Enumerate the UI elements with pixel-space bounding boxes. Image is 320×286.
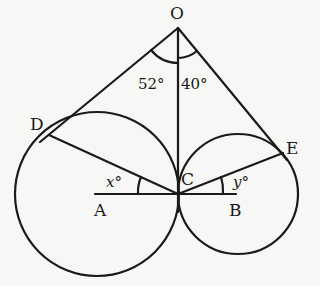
diagram-svg: O D E C A B 52° 40° x° y° bbox=[0, 0, 320, 286]
label-e: E bbox=[286, 138, 298, 158]
angle-label-52: 52° bbox=[138, 75, 165, 93]
label-b: B bbox=[229, 200, 242, 220]
angle-label-y: y° bbox=[232, 173, 249, 191]
label-d: D bbox=[30, 114, 44, 134]
label-a: A bbox=[93, 200, 107, 220]
angle-arc-coe bbox=[178, 51, 197, 58]
line-oe bbox=[178, 28, 287, 160]
angle-label-x: x° bbox=[106, 173, 122, 191]
label-c: C bbox=[181, 169, 194, 189]
angle-arc-doc bbox=[151, 50, 178, 63]
angle-label-40: 40° bbox=[181, 75, 208, 93]
angle-arc-x bbox=[138, 177, 141, 194]
angle-arc-y bbox=[221, 177, 223, 194]
geometry-diagram: O D E C A B 52° 40° x° y° bbox=[0, 0, 320, 286]
label-o: O bbox=[170, 3, 184, 23]
